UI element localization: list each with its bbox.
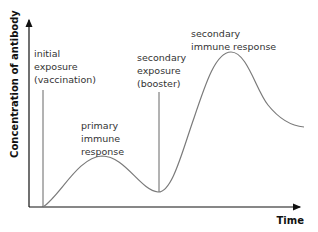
secondary-exposure-line-1: secondary [137, 52, 187, 63]
secondary-exposure-line-3: (booster) [137, 78, 181, 89]
secondary-exposure-label: secondary exposure (booster) [137, 52, 189, 89]
x-axis-label: Time [277, 215, 305, 226]
initial-exposure-line-3: (vaccination) [34, 74, 96, 85]
secondary-exposure-line-2: exposure [137, 65, 181, 76]
initial-exposure-line-1: initial [34, 48, 60, 59]
secondary-response-label: secondary immune response [191, 28, 276, 52]
primary-response-line-1: primary [81, 120, 119, 131]
primary-response-line-3: response [81, 146, 124, 157]
antibody-response-diagram: Concentration of antibody Time initial e… [0, 0, 318, 232]
diagram-canvas: Concentration of antibody Time initial e… [0, 0, 318, 232]
initial-exposure-label: initial exposure (vaccination) [34, 48, 96, 85]
secondary-response-line-1: secondary [191, 28, 241, 39]
primary-response-line-2: immune [81, 133, 120, 144]
secondary-response-line-2: immune response [191, 41, 276, 52]
primary-response-label: primary immune response [81, 120, 124, 157]
initial-exposure-line-2: exposure [34, 61, 78, 72]
y-axis-label: Concentration of antibody [9, 10, 20, 158]
